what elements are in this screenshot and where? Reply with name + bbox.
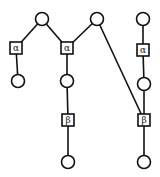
diagram-svg: αααββ <box>0 0 160 177</box>
circle-node <box>12 75 25 88</box>
circle-node <box>36 13 49 26</box>
box-node-beta: β <box>138 114 150 126</box>
circle-node <box>91 13 104 26</box>
circle-node <box>138 78 151 91</box>
box-node-alpha: α <box>10 42 22 54</box>
circle-node <box>137 13 150 26</box>
box-label: α <box>13 43 19 53</box>
box-node-beta: β <box>62 114 74 126</box>
box-node-alpha: α <box>61 42 73 54</box>
edge-c2-b2 <box>97 19 144 120</box>
edges <box>16 19 144 162</box>
box-label: α <box>64 43 70 53</box>
circle-node <box>62 156 75 169</box>
box-label: β <box>141 115 146 125</box>
box-label: β <box>65 115 70 125</box>
box-node-alpha: α <box>137 44 149 56</box>
tree-diagram: αααββ <box>0 0 160 177</box>
box-label: α <box>140 45 146 55</box>
circle-node <box>138 156 151 169</box>
circle-node <box>61 75 74 88</box>
